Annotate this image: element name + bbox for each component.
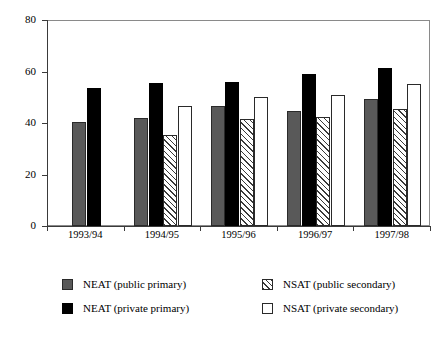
- bar-1994-95-neat-private-primary: [149, 83, 163, 226]
- bar-1994-95-nsat-public-secondary: [163, 135, 177, 226]
- y-tick-label-60: 60: [25, 66, 36, 77]
- x-tick-label-1994-95: 1994/95: [145, 229, 179, 241]
- bar-1994-95-neat-public-primary: [134, 118, 148, 226]
- bar-1996-97-nsat-private-secondary: [331, 95, 345, 226]
- chart-legend: NEAT (public primary)NSAT (public second…: [62, 278, 422, 324]
- x-tick-1: [124, 226, 125, 231]
- bar-group-1996-97: [278, 21, 355, 226]
- x-tick-label-1997-98: 1997/98: [374, 229, 408, 241]
- bar-1994-95-nsat-private-secondary: [178, 106, 192, 226]
- x-tick-2: [200, 226, 201, 231]
- y-tick-label-80: 80: [25, 14, 36, 25]
- y-tick-20: [42, 175, 47, 176]
- y-tick-60: [42, 72, 47, 73]
- x-tick-3: [277, 226, 278, 231]
- bar-1995-96-nsat-public-secondary: [240, 119, 254, 226]
- legend-swatch-icon: [262, 279, 273, 290]
- bar-1993-94-neat-private-primary: [87, 88, 101, 226]
- y-axis-labels: 020406080: [0, 20, 42, 226]
- bar-group-1993-94: [48, 21, 125, 226]
- bar-group-1997-98: [354, 21, 431, 226]
- y-tick-label-40: 40: [25, 117, 36, 128]
- bar-group-1994-95: [125, 21, 202, 226]
- bar-1996-97-neat-private-primary: [302, 74, 316, 226]
- y-tick-40: [42, 123, 47, 124]
- bar-1996-97-nsat-public-secondary: [316, 117, 330, 226]
- bar-1995-96-nsat-private-secondary: [254, 97, 268, 226]
- legend-item-nsat-private-secondary[interactable]: NSAT (private secondary): [262, 302, 398, 314]
- y-tick-label-20: 20: [25, 169, 36, 180]
- x-axis: [47, 226, 430, 227]
- legend-swatch-icon: [62, 303, 73, 314]
- x-tick-label-1993-94: 1993/94: [68, 229, 102, 241]
- bars-layer: [48, 21, 429, 226]
- bar-1997-98-nsat-public-secondary: [393, 109, 407, 226]
- x-tick-0: [47, 226, 48, 231]
- y-tick-80: [42, 20, 47, 21]
- legend-label: NEAT (private primary): [83, 302, 189, 314]
- bar-1997-98-neat-private-primary: [378, 68, 392, 226]
- x-tick-end: [430, 226, 431, 231]
- bar-chart: 020406080 1993/941994/951995/961996/9719…: [0, 0, 448, 337]
- x-tick-4: [353, 226, 354, 231]
- bar-group-1995-96: [201, 21, 278, 226]
- bar-1993-94-neat-public-primary: [72, 122, 86, 226]
- legend-swatch-icon: [262, 303, 273, 314]
- bar-1997-98-neat-public-primary: [364, 99, 378, 226]
- bar-1996-97-neat-public-primary: [287, 111, 301, 226]
- x-tick-label-1995-96: 1995/96: [221, 229, 255, 241]
- bar-1995-96-neat-private-primary: [225, 82, 239, 226]
- legend-label: NSAT (private secondary): [283, 302, 398, 314]
- bar-1995-96-neat-public-primary: [211, 106, 225, 226]
- x-tick-label-1996-97: 1996/97: [298, 229, 332, 241]
- y-tick-label-0: 0: [31, 220, 37, 231]
- legend-item-nsat-public-secondary[interactable]: NSAT (public secondary): [262, 278, 395, 290]
- bar-1997-98-nsat-private-secondary: [407, 84, 421, 226]
- legend-swatch-icon: [62, 279, 73, 290]
- legend-item-neat-private-primary[interactable]: NEAT (private primary): [62, 302, 189, 314]
- legend-label: NEAT (public primary): [83, 278, 186, 290]
- legend-label: NSAT (public secondary): [283, 278, 395, 290]
- legend-item-neat-public-primary[interactable]: NEAT (public primary): [62, 278, 186, 290]
